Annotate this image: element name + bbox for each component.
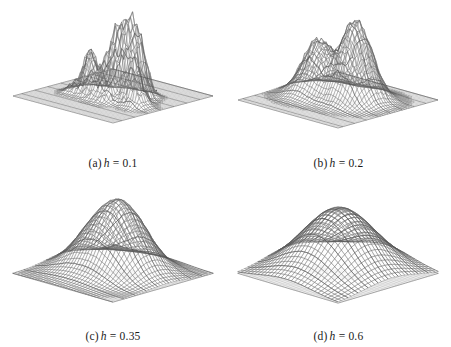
panel-equals-a: = [113, 157, 120, 169]
panel-label-d: (d) [314, 330, 328, 342]
panel-value-b: 0.2 [348, 157, 363, 169]
surface-plot-d [226, 174, 451, 323]
panel-value-a: 0.1 [123, 157, 138, 169]
panel-caption-d: (d)h = 0.6 [226, 329, 451, 343]
panel-symbol-a: h [102, 157, 110, 169]
panel-equals-b: = [339, 157, 346, 169]
panel-symbol-d: h [328, 330, 336, 342]
density-surface-group [243, 20, 438, 127]
panel-caption-c: (c)h = 0.35 [0, 329, 226, 343]
panel-value-d: 0.6 [348, 330, 363, 342]
panel-d: (d)h = 0.6 [226, 174, 451, 347]
panel-caption-b: (b)h = 0.2 [226, 156, 451, 170]
panel-label-a: (a) [88, 157, 101, 169]
figure-kernel-density-surfaces: (a)h = 0.1 (b)h = 0.2 (c)h = 0.35 (d)h [0, 0, 451, 347]
panel-label-b: (b) [314, 157, 328, 169]
surface-wireframe-b [226, 0, 451, 150]
density-surface-group [238, 207, 439, 302]
panel-symbol-c: h [99, 330, 107, 342]
panel-equals-d: = [339, 330, 346, 342]
surface-hidden-line-mask [15, 199, 210, 299]
surface-wireframe-d [226, 174, 451, 323]
surface-wireframe-a [0, 0, 226, 150]
surface-wireframe-c [0, 174, 226, 323]
panel-label-c: (c) [85, 330, 98, 342]
density-surface-group [13, 199, 214, 302]
panel-c: (c)h = 0.35 [0, 174, 226, 347]
surface-plot-a [0, 0, 226, 150]
panel-b: (b)h = 0.2 [226, 0, 451, 174]
panel-caption-a: (a)h = 0.1 [0, 156, 226, 170]
panel-symbol-b: h [328, 157, 336, 169]
surface-plot-b [226, 0, 451, 150]
surface-plot-c [0, 174, 226, 323]
panel-equals-c: = [110, 330, 117, 342]
panel-a: (a)h = 0.1 [0, 0, 226, 174]
panel-value-c: 0.35 [120, 330, 141, 342]
